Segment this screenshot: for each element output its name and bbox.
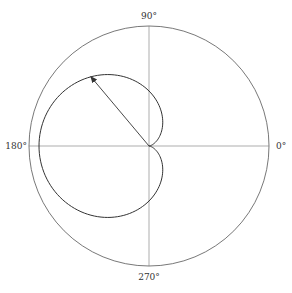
label-270-degrees: 270° [138,272,160,282]
direction-arrow [91,77,149,146]
label-90-degrees: 90° [141,11,157,21]
label-180-degrees: 180° [5,141,27,151]
polar-plot-svg: 90° 180° 0° 270° [0,0,292,293]
label-0-degrees: 0° [276,141,286,151]
polar-diagram: 90° 180° 0° 270° [0,0,292,293]
